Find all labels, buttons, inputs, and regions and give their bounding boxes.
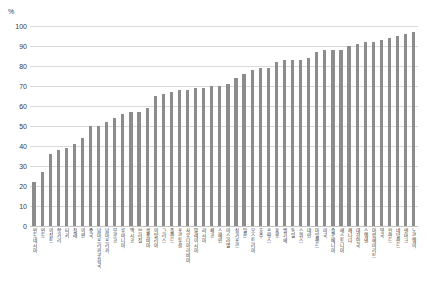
x-label-slot: 남아프리카: [103, 228, 111, 284]
x-axis-tick: 콜롬비아: [145, 228, 150, 248]
bar-slot: [183, 26, 191, 226]
bar: [364, 42, 367, 226]
x-axis-tick: 네덜란드: [395, 228, 400, 248]
x-axis-tick-labels: 인도네시아인도이집트헝가리터키칠레이란중국남아프리카공화국남아프리카모로코루마니…: [30, 228, 418, 284]
x-label-slot: 헝가리: [54, 228, 62, 284]
x-label-slot: 싱가포르: [232, 228, 240, 284]
x-label-slot: 아일랜드: [313, 228, 321, 284]
bar-slot: [232, 26, 240, 226]
x-axis-tick: 사우디아라비아: [185, 228, 190, 263]
x-label-slot: 네덜란드: [394, 228, 402, 284]
bar: [146, 108, 149, 226]
bar-slot: [321, 26, 329, 226]
bar-slot: [38, 26, 46, 226]
x-axis-tick: 미국: [322, 228, 327, 238]
x-label-slot: 오스트리아: [248, 228, 256, 284]
x-label-slot: 사우디아라비아: [183, 228, 191, 284]
x-label-slot: 영국: [377, 228, 385, 284]
x-axis-tick: 헝가리: [56, 228, 61, 243]
x-axis-tick: 포르투갈: [177, 228, 182, 248]
bar-slot: [159, 26, 167, 226]
x-label-slot: 이란: [78, 228, 86, 284]
x-axis-tick: 아랍에미리트: [371, 228, 376, 258]
bar: [73, 144, 76, 226]
x-label-slot: 모로코: [111, 228, 119, 284]
bar: [347, 46, 350, 226]
x-axis-tick: 홍콩: [274, 228, 279, 238]
bar-slot: [111, 26, 119, 226]
bar: [267, 68, 270, 226]
x-label-slot: 폴란드: [167, 228, 175, 284]
bar-slot: [135, 26, 143, 226]
x-axis-tick: 벨기에: [282, 228, 287, 243]
y-axis-tick: 0: [23, 223, 27, 230]
y-axis-unit-label: %: [8, 8, 14, 16]
bar-slot: [313, 26, 321, 226]
bar-slot: [377, 26, 385, 226]
bar-slot: [410, 26, 418, 226]
x-axis-tick: 그리스: [161, 228, 166, 243]
bar-slot: [329, 26, 337, 226]
bar: [323, 50, 326, 226]
bar-slot: [175, 26, 183, 226]
x-label-slot: 일본: [240, 228, 248, 284]
bar-slot: [256, 26, 264, 226]
x-axis-tick: 에스토니아: [338, 228, 343, 253]
x-axis-tick: 중국: [88, 228, 93, 238]
y-axis-tick: 30: [19, 163, 27, 170]
y-axis-tick: 40: [19, 143, 27, 150]
bar-slot: [369, 26, 377, 226]
x-label-slot: 호주: [256, 228, 264, 284]
bar: [170, 92, 173, 226]
bar: [89, 126, 92, 226]
bar-slot: [224, 26, 232, 226]
x-axis-tick: 터키: [64, 228, 69, 238]
bar: [412, 32, 415, 226]
x-axis-tick: 독일: [290, 228, 295, 238]
gridline: [30, 226, 418, 227]
y-axis-tick: 20: [19, 183, 27, 190]
x-axis-tick: 오스트리아: [250, 228, 255, 253]
y-axis-tick: 50: [19, 123, 27, 130]
bar-slot: [289, 26, 297, 226]
bar: [291, 60, 294, 226]
y-axis-tick: 90: [19, 43, 27, 50]
x-label-slot: 터키: [62, 228, 70, 284]
x-axis-tick: 스페인: [217, 228, 222, 243]
x-axis-tick: 칠레: [72, 228, 77, 238]
x-axis-tick: 호주: [258, 228, 263, 238]
x-axis-tick: 인도: [40, 228, 45, 238]
x-label-slot: 이집트: [46, 228, 54, 284]
x-label-slot: 아랍에미리트: [369, 228, 377, 284]
x-axis-tick: 프랑스: [266, 228, 271, 243]
x-label-slot: 체코: [208, 228, 216, 284]
bar-slot: [87, 26, 95, 226]
bar: [242, 74, 245, 226]
bar: [41, 172, 44, 226]
x-label-slot: 핀란드: [385, 228, 393, 284]
x-label-slot: 러시아: [200, 228, 208, 284]
x-axis-tick: 싱가포르: [233, 228, 238, 248]
x-axis-tick: 멕시코: [128, 228, 133, 243]
x-label-slot: 벨기에: [280, 228, 288, 284]
x-axis-tick: 러시아: [201, 228, 206, 243]
bar: [202, 88, 205, 226]
bar-slot: [103, 26, 111, 226]
x-axis-tick: 노르웨이: [411, 228, 416, 248]
x-axis-tick: 이란: [80, 228, 85, 238]
bar: [404, 34, 407, 226]
x-axis-tick: 브라질: [137, 228, 142, 243]
bar-slot: [248, 26, 256, 226]
bar: [234, 78, 237, 226]
bar: [121, 114, 124, 226]
x-axis-tick: 영국: [379, 228, 384, 238]
x-label-slot: 대한민국: [353, 228, 361, 284]
y-axis-tick: 80: [19, 63, 27, 70]
x-axis-tick: 남아프리카공화국: [96, 228, 101, 268]
x-label-slot: 남아프리카공화국: [95, 228, 103, 284]
x-axis-tick: 말레이시아: [193, 228, 198, 253]
bar-slot: [297, 26, 305, 226]
bar-slot: [46, 26, 54, 226]
bar: [49, 154, 52, 226]
x-axis-tick: 남아프리카: [104, 228, 109, 253]
